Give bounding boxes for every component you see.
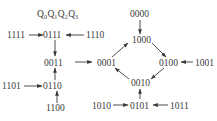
arrow-0001-1000 xyxy=(112,43,128,57)
state-0001: 0001 xyxy=(97,58,116,68)
state-0010: 0010 xyxy=(131,78,150,88)
arrow-0100-0010 xyxy=(151,68,164,79)
state-1011: 1011 xyxy=(170,101,189,111)
header-q0q1q2q3: Q0Q1Q2Q3 xyxy=(37,9,78,20)
state-0011: 0011 xyxy=(44,58,63,68)
arrow-1000-0100 xyxy=(152,43,166,57)
state-0111: 0111 xyxy=(43,30,62,40)
state-1001: 1001 xyxy=(195,58,214,68)
arrow-0010-0001 xyxy=(115,68,129,79)
state-1010: 1010 xyxy=(92,101,111,111)
state-diagram: Q0Q1Q2Q3 1111 0111 1110 0011 1101 0110 1… xyxy=(0,0,217,121)
state-1111: 1111 xyxy=(7,30,25,40)
state-1100: 1100 xyxy=(46,103,65,113)
state-0000: 0000 xyxy=(130,9,149,19)
state-1101: 1101 xyxy=(2,81,21,91)
state-0100: 0100 xyxy=(159,58,178,68)
state-0110: 0110 xyxy=(43,81,62,91)
state-1110: 1110 xyxy=(86,30,105,40)
state-0101: 0101 xyxy=(130,101,149,111)
state-1000: 1000 xyxy=(132,35,151,45)
